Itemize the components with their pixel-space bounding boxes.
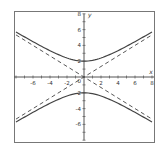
x-tick-label: -2: [64, 80, 69, 86]
hyperbola-chart: -6-4-224688642-2-4-60xy: [0, 0, 163, 153]
y-tick-label: -6: [76, 121, 82, 127]
y-axis-label: y: [87, 11, 92, 19]
x-tick-label: -4: [47, 80, 53, 86]
y-tick-label: 4: [78, 42, 82, 48]
x-tick-label: 6: [133, 80, 137, 86]
x-tick-label: 8: [150, 80, 154, 86]
y-tick-label: 6: [78, 27, 82, 33]
y-tick-label: -4: [76, 106, 82, 112]
x-tick-label: -6: [30, 80, 36, 86]
y-tick-label: 8: [78, 11, 82, 17]
x-tick-label: 2: [99, 80, 103, 86]
x-axis-label: x: [148, 68, 153, 75]
x-tick-label: 4: [116, 80, 120, 86]
